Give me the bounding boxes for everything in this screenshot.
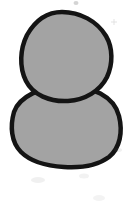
upper-blob-shape xyxy=(21,12,111,101)
drawing-canvas: Two Stacked Blobs xyxy=(0,0,130,206)
smudge-lower-left xyxy=(31,177,45,183)
smudge-bottom-right xyxy=(93,195,105,201)
smudge-lower-right xyxy=(79,174,89,179)
smudge-top xyxy=(74,1,79,5)
smudge-mid-right xyxy=(114,148,122,152)
blob-figure-illustration xyxy=(0,0,130,206)
